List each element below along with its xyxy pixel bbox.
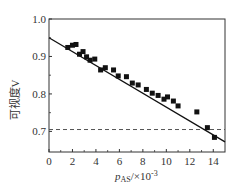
data-point-marker — [194, 109, 199, 114]
data-point-marker — [165, 94, 170, 99]
x-tick-label: 6 — [117, 155, 123, 167]
data-point-marker — [124, 74, 129, 79]
data-points — [65, 42, 217, 140]
x-tick-label: 12 — [184, 155, 195, 167]
y-tick-label: 1.0 — [32, 13, 46, 25]
y-axis-label-text: 可视度V — [8, 79, 21, 120]
fit-line-segment — [49, 38, 225, 142]
axis-ticks: 024681012140.70.80.91.0 — [32, 13, 219, 167]
data-point-marker — [103, 65, 108, 70]
x-tick-label: 0 — [46, 155, 52, 167]
data-point-marker — [111, 67, 116, 72]
x-tick-label: 2 — [70, 155, 76, 167]
data-point-marker — [176, 103, 181, 108]
x-tick-label: 10 — [161, 155, 173, 167]
x-axis-label: pAS/×10-3 — [114, 169, 158, 184]
data-point-marker — [116, 73, 121, 78]
data-point-marker — [65, 45, 70, 50]
visibility-chart: 024681012140.70.80.91.0 可视度V pAS/×10-3 — [0, 0, 239, 190]
y-axis-label: 可视度V — [8, 79, 21, 120]
x-tick-label: 8 — [140, 155, 146, 167]
data-point-marker — [81, 49, 86, 54]
x-axis-label-text: pAS/×10-3 — [114, 169, 158, 184]
x-tick-label: 14 — [208, 155, 220, 167]
data-point-marker — [205, 125, 210, 130]
data-point-marker — [212, 135, 217, 140]
x-tick-label: 4 — [93, 155, 99, 167]
data-point-marker — [144, 87, 149, 92]
data-point-marker — [156, 93, 161, 98]
data-point-marker — [98, 67, 103, 72]
data-point-marker — [88, 58, 93, 63]
data-point-marker — [130, 81, 135, 86]
y-tick-label: 0.8 — [32, 88, 46, 100]
data-point-marker — [92, 57, 97, 62]
y-tick-label: 0.7 — [32, 125, 46, 137]
y-tick-label: 0.9 — [32, 50, 46, 62]
data-point-marker — [150, 91, 155, 96]
data-point-marker — [73, 42, 78, 47]
data-point-marker — [136, 82, 141, 87]
fit-line — [49, 38, 225, 142]
data-point-marker — [171, 99, 176, 104]
